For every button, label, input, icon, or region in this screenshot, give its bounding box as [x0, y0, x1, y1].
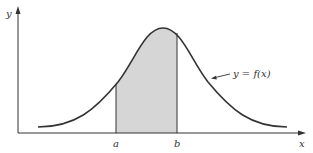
y-axis-label: y	[5, 8, 12, 19]
a-label: a	[113, 138, 119, 149]
b-label: b	[174, 138, 180, 149]
y-axis-arrow-icon	[16, 6, 21, 14]
curve-label: y = f(x)	[232, 68, 271, 79]
x-axis-label: x	[299, 138, 305, 149]
x-axis-arrow-icon	[298, 131, 306, 136]
shaded-area	[38, 28, 287, 133]
area-under-curve-diagram: y x a b y = f(x)	[0, 0, 313, 153]
label-pointer-arrow-icon	[211, 76, 217, 80]
